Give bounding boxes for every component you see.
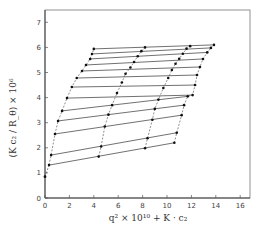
data-point — [173, 141, 176, 144]
data-point — [154, 108, 157, 111]
data-point — [162, 87, 165, 90]
data-point — [140, 50, 143, 53]
y-tick-label: 5 — [37, 69, 41, 77]
data-point — [189, 45, 192, 48]
data-point — [48, 164, 51, 167]
y-tick-label: 7 — [37, 19, 41, 27]
x-axis-title: q² × 10¹⁰ + K · c₂ — [109, 213, 188, 223]
y-axis-title: (K c₂ / R_θ) × 10⁶ — [8, 78, 19, 157]
angle-line — [55, 115, 182, 134]
data-point — [178, 57, 181, 60]
data-point — [81, 70, 84, 73]
zimm-plot: 0246810121416 01234567 q² × 10¹⁰ + K · c… — [0, 0, 256, 232]
data-point — [129, 66, 132, 69]
data-point — [186, 95, 189, 98]
data-points — [44, 44, 216, 178]
data-point — [196, 74, 199, 77]
data-lines — [49, 45, 214, 165]
x-ticks: 0246810121416 — [43, 195, 245, 210]
data-point — [144, 46, 147, 49]
angle-line — [72, 85, 195, 87]
data-point — [75, 77, 78, 80]
data-point — [185, 47, 188, 50]
angle-line — [77, 75, 197, 78]
angle-line — [86, 59, 203, 65]
concentration-line — [49, 49, 94, 165]
data-point — [175, 131, 178, 134]
y-ticks: 01234567 — [37, 19, 48, 203]
data-point — [199, 66, 202, 69]
data-point — [89, 58, 92, 61]
data-point — [182, 52, 185, 55]
data-point — [107, 113, 110, 116]
y-tick-label: 0 — [37, 195, 41, 203]
data-point — [91, 53, 94, 56]
data-point — [157, 98, 160, 101]
angle-line — [58, 105, 184, 121]
plot-frame — [45, 10, 250, 198]
x-tick-label: 14 — [211, 202, 220, 210]
data-point — [213, 44, 216, 47]
data-point — [85, 64, 88, 67]
x-tick-label: 10 — [163, 202, 172, 210]
data-point — [133, 61, 136, 64]
y-tick-label: 4 — [37, 94, 42, 102]
data-point — [206, 51, 209, 54]
data-point — [180, 114, 183, 117]
data-point — [167, 77, 170, 80]
x-tick-label: 0 — [43, 202, 47, 210]
y-tick-label: 1 — [37, 169, 41, 177]
data-point — [100, 145, 103, 148]
data-point — [144, 147, 147, 150]
data-point — [97, 155, 100, 158]
extrapolated-point — [44, 175, 47, 178]
data-point — [146, 137, 149, 140]
x-tick-label: 2 — [67, 202, 71, 210]
concentration-lines — [45, 45, 214, 177]
data-point — [103, 125, 106, 128]
x-tick-label: 4 — [92, 202, 97, 210]
data-point — [124, 72, 127, 75]
angle-line — [94, 45, 214, 49]
y-tick-label: 2 — [37, 144, 41, 152]
data-point — [61, 110, 64, 113]
data-point — [111, 104, 114, 107]
y-tick-label: 6 — [37, 44, 42, 52]
data-point — [57, 120, 60, 123]
data-point — [194, 84, 197, 87]
data-point — [183, 104, 186, 107]
angle-line — [51, 133, 177, 155]
angle-line — [62, 96, 188, 111]
data-point — [136, 55, 139, 58]
extrapolation-line — [45, 165, 49, 177]
data-point — [116, 92, 119, 95]
data-point — [171, 69, 174, 72]
data-point — [93, 48, 96, 51]
x-tick-label: 8 — [140, 202, 144, 210]
x-tick-label: 6 — [116, 202, 121, 210]
data-point — [210, 47, 213, 50]
angle-line — [49, 143, 174, 165]
angle-line — [82, 67, 200, 71]
data-point — [191, 94, 194, 97]
x-tick-label: 12 — [187, 202, 196, 210]
data-point — [71, 86, 74, 89]
data-point — [174, 62, 177, 65]
data-point — [202, 58, 205, 61]
data-point — [121, 81, 124, 84]
data-point — [66, 97, 69, 100]
data-point — [50, 154, 53, 157]
data-point — [151, 118, 154, 121]
data-point — [54, 133, 57, 136]
y-tick-label: 3 — [37, 119, 41, 127]
x-tick-label: 16 — [236, 202, 245, 210]
